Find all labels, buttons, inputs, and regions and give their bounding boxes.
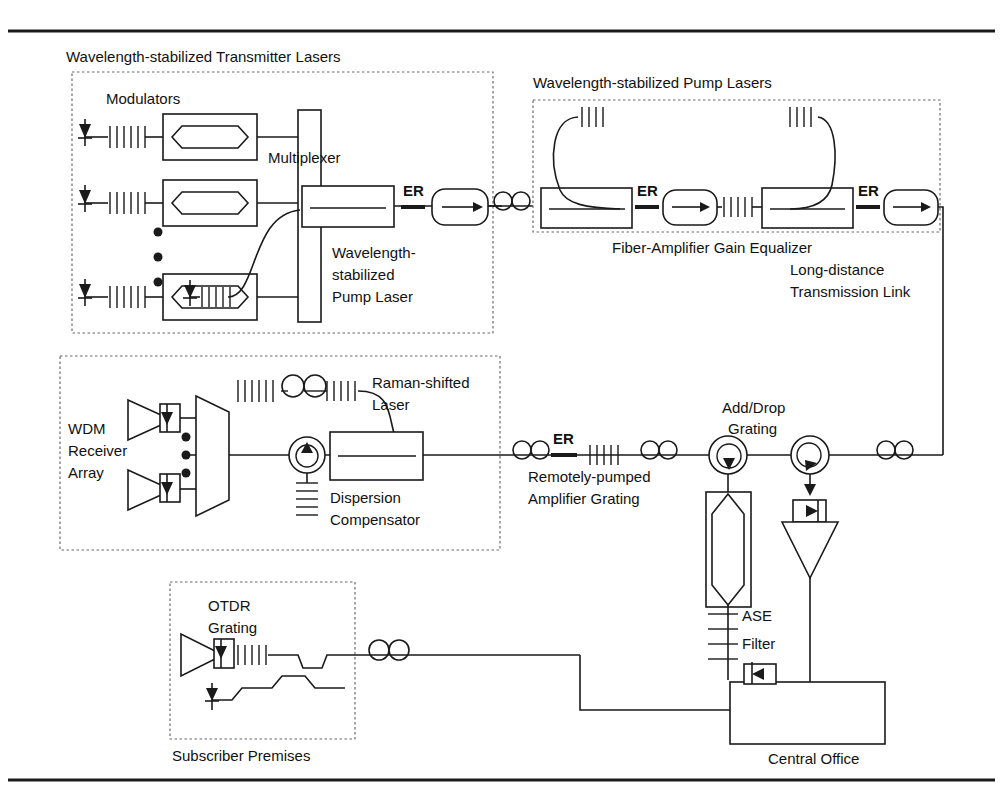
tx-pump-laser-cavity xyxy=(302,186,394,227)
circulator-1-grating xyxy=(296,483,318,515)
splice-loops-5 xyxy=(369,640,409,660)
edfa-cavity-1 xyxy=(541,188,632,228)
modulator-2 xyxy=(163,180,257,226)
er-label-3: ER xyxy=(858,182,879,199)
tx-pump-label-3: Pump Laser xyxy=(332,288,413,305)
long-distance-link xyxy=(938,207,943,455)
ase-filter-label-2: Filter xyxy=(742,635,775,652)
gain-equalizer-label: Fiber-Amplifier Gain Equalizer xyxy=(612,239,812,256)
ase-filter-label-1: ASE xyxy=(742,607,772,624)
raman-label-1: Raman-shifted xyxy=(372,374,470,391)
central-office xyxy=(730,682,885,744)
otdr-label-1: OTDR xyxy=(208,597,251,614)
modulator-n xyxy=(163,274,257,320)
er-label-4: ER xyxy=(553,430,574,447)
transmitter-channel-1 xyxy=(78,114,298,160)
wdm-label-1: WDM xyxy=(68,420,106,437)
add-path-source xyxy=(782,500,838,688)
add-drop-label-2: Grating xyxy=(728,420,777,437)
transmitter-section-label: Wavelength-stabilized Transmitter Lasers xyxy=(66,48,341,65)
wdm-label-3: Array xyxy=(68,464,104,481)
otdr-grating xyxy=(238,645,266,665)
dispersion-label-2: Compensator xyxy=(330,511,420,528)
raman-grating-right xyxy=(327,381,355,401)
long-distance-label-2: Transmission Link xyxy=(790,283,911,300)
multiplexer-label: Multiplexer xyxy=(268,149,341,166)
circulator-1 xyxy=(289,437,325,483)
subscriber-feeder xyxy=(580,655,730,710)
ase-filter-grating xyxy=(708,614,738,659)
splice-loops-2 xyxy=(513,441,549,459)
add-drop-label-1: Add/Drop xyxy=(722,399,785,416)
transmitter-channel-2 xyxy=(78,180,298,226)
modulators-label: Modulators xyxy=(106,90,180,107)
er-label-2: ER xyxy=(637,182,658,199)
otdr-fiber-notch xyxy=(268,655,580,668)
channel-ellipsis xyxy=(154,228,163,287)
central-office-label: Central Office xyxy=(768,750,859,767)
subscriber-premises-label: Subscriber Premises xyxy=(172,747,310,764)
pump-grating-2 xyxy=(790,107,811,127)
raman-grating-left xyxy=(238,380,273,402)
otdr-receiver xyxy=(181,634,234,676)
modulator-1 xyxy=(163,114,257,160)
splice-loops-4 xyxy=(877,441,913,459)
otdr-monitor-diode xyxy=(205,683,219,710)
long-distance-label-1: Long-distance xyxy=(790,261,884,278)
figure-canvas: Wavelength-stabilized Transmitter Lasers… xyxy=(0,0,1003,802)
wdm-label-2: Receiver xyxy=(68,442,127,459)
gain-flattening-grating xyxy=(724,197,752,217)
raman-loops xyxy=(282,375,326,397)
central-office-source xyxy=(744,662,776,684)
circulator-drop xyxy=(709,436,747,492)
tx-pump-label-2: stabilized xyxy=(332,266,395,283)
splice-loops-3 xyxy=(641,441,677,459)
circulator-add xyxy=(791,436,829,496)
otdr-trace xyxy=(212,676,345,700)
tx-pump-label-1: Wavelength- xyxy=(332,244,416,261)
transmitter-channel-n xyxy=(78,274,298,320)
otdr-label-2: Grating xyxy=(208,619,257,636)
raman-label-2: Laser xyxy=(372,396,410,413)
pump-lasers-label: Wavelength-stabilized Pump Lasers xyxy=(533,74,772,91)
demultiplexer xyxy=(196,396,229,516)
er-label-1: ER xyxy=(403,182,424,199)
splice-loops-1 xyxy=(494,192,530,210)
pump-grating-1 xyxy=(582,107,603,127)
remote-amp-label-2: Amplifier Grating xyxy=(528,490,640,507)
remote-amp-label-1: Remotely-pumped xyxy=(528,468,651,485)
receiver-ellipsis xyxy=(182,433,191,478)
dispersion-label-1: Dispersion xyxy=(330,489,401,506)
